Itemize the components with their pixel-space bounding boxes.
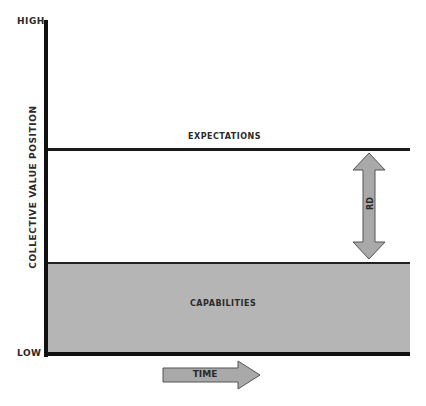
y-axis-high-label: HIGH [17, 16, 45, 26]
y-axis [44, 20, 48, 357]
y-axis-title: COLLECTIVE VALUE POSITION [28, 87, 38, 287]
x-axis [44, 352, 410, 356]
x-axis-time-label: TIME [170, 369, 240, 379]
expectations-line [48, 148, 410, 151]
expectations-label: EXPECTATIONS [188, 132, 261, 141]
capabilities-area [48, 262, 410, 354]
y-axis-low-label: LOW [17, 348, 42, 358]
rd-gap-label: RD [366, 189, 375, 219]
capabilities-label: CAPABILITIES [190, 299, 256, 308]
